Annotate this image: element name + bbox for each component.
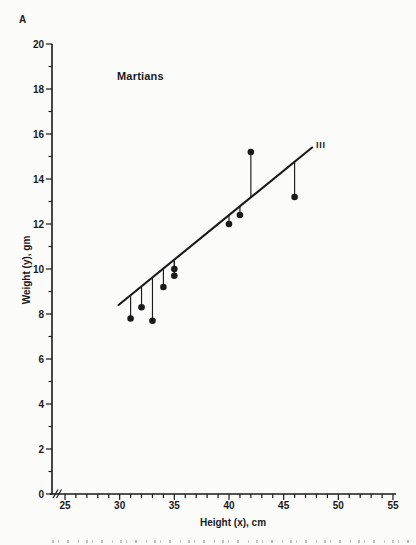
- x-tick-label: 40: [223, 500, 235, 511]
- data-point: [171, 266, 178, 273]
- data-point: [127, 315, 134, 322]
- data-point: [248, 149, 255, 156]
- data-point: [171, 272, 178, 279]
- y-tick-label: 20: [33, 39, 45, 50]
- regression-line-label: III: [316, 141, 326, 150]
- data-point: [291, 194, 298, 201]
- y-tick-label: 8: [38, 309, 44, 320]
- data-point: [160, 284, 167, 291]
- y-tick-label: 14: [33, 174, 45, 185]
- data-point: [138, 304, 145, 311]
- y-tick-label: 12: [33, 219, 45, 230]
- chart-title: Martians: [117, 71, 164, 82]
- y-tick-label: 18: [33, 84, 45, 95]
- regression-line: [119, 148, 313, 306]
- x-tick-label: 50: [333, 500, 345, 511]
- y-tick-label: 6: [38, 354, 44, 365]
- cropped-caption-artifact: [52, 540, 410, 543]
- y-axis-label: Weight (y), gm: [22, 236, 32, 305]
- x-tick-label: 30: [114, 500, 126, 511]
- y-tick-label: 0: [38, 489, 44, 500]
- data-point: [237, 212, 244, 219]
- y-tick-label: 16: [33, 129, 45, 140]
- y-tick-label: 4: [38, 399, 44, 410]
- x-tick-label: 45: [278, 500, 290, 511]
- x-tick-label: 55: [387, 500, 399, 511]
- figure-panel: 0246810121416182025303540455055 A Martia…: [0, 0, 416, 545]
- chart-canvas: 0246810121416182025303540455055: [0, 0, 416, 545]
- y-tick-label: 10: [33, 264, 45, 275]
- x-axis-label: Height (x), cm: [200, 518, 266, 528]
- x-tick-label: 35: [169, 500, 181, 511]
- y-tick-label: 2: [38, 444, 44, 455]
- data-point: [226, 221, 233, 228]
- x-tick-label: 25: [59, 500, 71, 511]
- data-point: [149, 317, 156, 324]
- panel-label: A: [19, 15, 26, 25]
